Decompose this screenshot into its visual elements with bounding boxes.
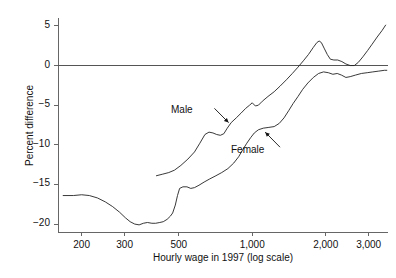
- series-line-female: [63, 70, 387, 225]
- chart-annotation-arrows: [214, 108, 280, 147]
- x-axis-title: Hourly wage in 1997 (log scale): [58, 252, 388, 263]
- x-tick-label: 300: [100, 239, 150, 250]
- chart-axes: [54, 18, 388, 236]
- series-label-male: Male: [171, 104, 193, 115]
- y-tick-label: −20: [6, 217, 50, 228]
- chart-figure: 50−5−10−15−202003005001,0002,0003,000 Pe…: [0, 0, 396, 278]
- chart-plot-area: [0, 0, 396, 278]
- y-tick-label: 5: [6, 19, 50, 30]
- x-tick-label: 500: [154, 239, 204, 250]
- chart-series-lines: [63, 25, 387, 225]
- x-tick-label: 3,000: [344, 239, 394, 250]
- x-tick-label: 1,000: [227, 239, 277, 250]
- y-axis-title: Percent difference: [24, 51, 35, 201]
- series-label-female: Female: [231, 144, 264, 155]
- series-line-male: [156, 25, 385, 176]
